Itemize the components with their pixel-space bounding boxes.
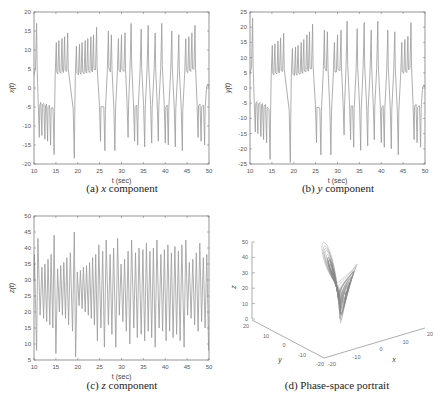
- x-tick-label: 35: [140, 364, 147, 370]
- y-tick-label: 0: [244, 85, 248, 91]
- x-tick-label: 30: [334, 168, 341, 174]
- y-tick-label: -5: [26, 104, 32, 110]
- y-tick-label: -25: [238, 161, 247, 167]
- x-tick-label: 25: [312, 168, 319, 174]
- x-tick-label: 10: [31, 168, 38, 174]
- y-tick-label: 5: [28, 357, 32, 363]
- y-tick-label: 30: [24, 277, 31, 283]
- x-axis-label: x: [391, 356, 396, 363]
- x-tick-label: 50: [206, 168, 213, 174]
- y-axis: [252, 320, 324, 358]
- x-tick-label: 45: [184, 168, 191, 174]
- caption-a: (a) x component: [34, 182, 210, 194]
- x-tick-label: 15: [269, 168, 276, 174]
- y-tick-label: 15: [24, 325, 31, 331]
- caption-a-suffix: component: [109, 182, 158, 194]
- y-tick-label: 0: [28, 85, 32, 91]
- x-tick-label: 25: [96, 364, 103, 370]
- y-tick-label: 10: [263, 333, 269, 339]
- y-tick-label: 15: [24, 28, 31, 34]
- z-tick-label: 30: [242, 270, 248, 276]
- caption-c-prefix: (c): [87, 379, 99, 391]
- x-tick-label: -20: [328, 361, 336, 367]
- y-axis-label: y: [277, 356, 282, 364]
- caption-b-suffix: component: [325, 182, 374, 194]
- z-tick-label: 0: [245, 316, 248, 322]
- y-tick-label: -20: [316, 361, 324, 367]
- y-axis-label: z(t): [8, 283, 16, 294]
- x-tick-label: 10: [31, 364, 38, 370]
- y-tick-label: 20: [243, 323, 249, 329]
- x-tick-label: 50: [206, 364, 213, 370]
- series-line: [34, 23, 209, 158]
- x-tick-label: 15: [53, 364, 60, 370]
- x-tick-label: 45: [184, 364, 191, 370]
- caption-b-var: y: [318, 182, 323, 194]
- y-tick-label: 50: [24, 213, 31, 219]
- caption-a-prefix: (a): [86, 182, 98, 194]
- z-tick-label: 50: [242, 239, 248, 245]
- caption-a-var: x: [101, 182, 106, 194]
- y-tick-label: 25: [24, 293, 31, 299]
- chart-panel-b: 101520253035404550-25-20-15-10-505101520…: [222, 0, 445, 200]
- x-tick-label: 15: [53, 168, 60, 174]
- x-tick-label: 20: [74, 168, 81, 174]
- y-tick-label: 20: [240, 24, 247, 30]
- x-tick-label: 0: [379, 346, 382, 352]
- x-tick-label: 45: [400, 168, 407, 174]
- chart-panel-a: 101520253035404550-20-15-10-505101520t (…: [0, 0, 222, 200]
- y-tick-label: -10: [22, 123, 31, 129]
- chart-a-svg: 101520253035404550-20-15-10-505101520t (…: [0, 0, 222, 185]
- x-axis: [324, 328, 425, 358]
- y-tick-label: -20: [238, 146, 247, 152]
- series-line: [34, 232, 209, 357]
- caption-c-var: z: [102, 379, 106, 391]
- chart-d-svg: 01020304050z20100-10-20y-20-1001020x: [222, 200, 445, 382]
- y-tick-label: -10: [238, 115, 247, 121]
- y-tick-label: 35: [24, 261, 31, 267]
- x-tick-label: 40: [162, 364, 169, 370]
- y-tick-label: 5: [244, 70, 248, 76]
- y-axis-label: x(t): [8, 83, 16, 94]
- series-line: [250, 18, 425, 162]
- chart-panel-c: 1015202530354045505101520253035404550t (…: [0, 200, 222, 409]
- y-tick-label: -20: [22, 161, 31, 167]
- chart-panel-d: 01020304050z20100-10-20y-20-1001020x (d)…: [222, 200, 445, 409]
- x-tick-label: 10: [247, 168, 254, 174]
- y-axis-label: y(t): [224, 83, 232, 94]
- y-tick-label: 10: [24, 341, 31, 347]
- x-tick-label: 35: [356, 168, 363, 174]
- chart-b-svg: 101520253035404550-25-20-15-10-505101520…: [222, 0, 445, 185]
- y-tick-label: 5: [28, 66, 32, 72]
- x-tick-label: 20: [427, 331, 433, 337]
- y-tick-label: 20: [24, 9, 31, 15]
- attractor-trajectory: [322, 242, 357, 323]
- x-tick-label: 50: [422, 168, 429, 174]
- x-tick-label: 10: [402, 339, 408, 345]
- y-tick-label: -10: [298, 352, 306, 358]
- z-tick-label: 20: [242, 285, 248, 291]
- x-tick-label: 25: [96, 168, 103, 174]
- y-tick-label: -15: [22, 142, 31, 148]
- y-tick-label: -15: [238, 131, 247, 137]
- y-tick-label: 20: [24, 309, 31, 315]
- y-tick-label: -5: [242, 100, 248, 106]
- y-tick-label: 15: [240, 39, 247, 45]
- z-tick-label: 40: [242, 254, 248, 260]
- y-tick-label: 10: [240, 55, 247, 61]
- x-tick-label: 20: [290, 168, 297, 174]
- x-tick-label: 35: [140, 168, 147, 174]
- y-tick-label: 0: [282, 342, 285, 348]
- x-tick-label: 40: [378, 168, 385, 174]
- y-tick-label: 45: [24, 229, 31, 235]
- y-tick-label: 25: [240, 9, 247, 15]
- caption-d: (d) Phase-space portrait: [242, 379, 432, 391]
- z-axis-label: z: [230, 285, 237, 290]
- x-tick-label: 40: [162, 168, 169, 174]
- y-tick-label: 40: [24, 245, 31, 251]
- z-tick-label: 10: [242, 301, 248, 307]
- caption-b: (b) y component: [250, 182, 426, 194]
- caption-c-suffix: component: [109, 379, 158, 391]
- y-tick-label: 10: [24, 47, 31, 53]
- x-tick-label: 30: [118, 168, 125, 174]
